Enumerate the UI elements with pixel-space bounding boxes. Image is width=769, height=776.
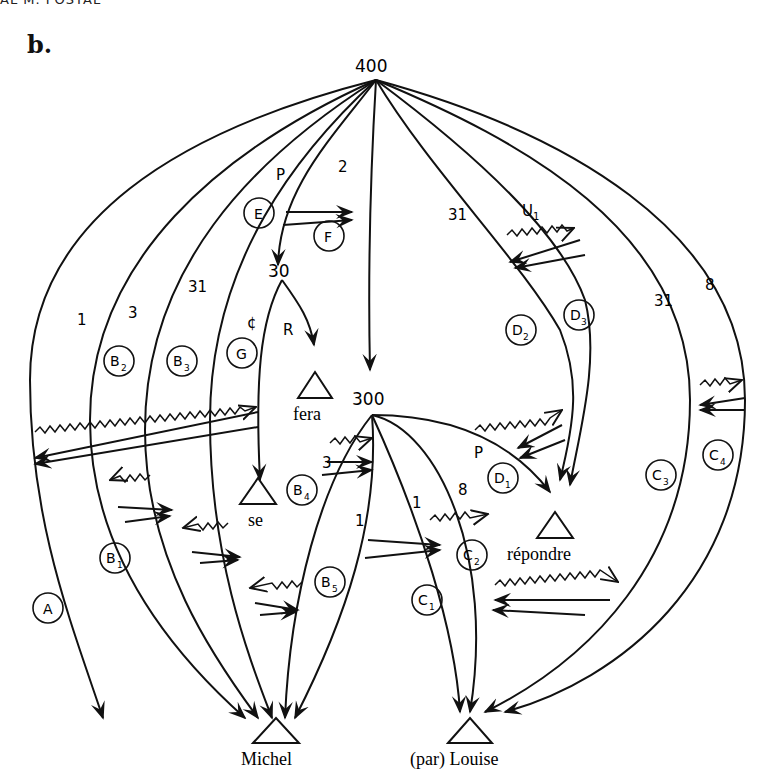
svg-text:C: C xyxy=(709,447,719,463)
svg-text:5: 5 xyxy=(332,584,338,594)
svg-text:E: E xyxy=(254,206,263,222)
svg-text:D: D xyxy=(570,307,581,323)
node-400: 400 xyxy=(355,56,387,76)
label-8-c: 8 xyxy=(458,481,468,499)
arrow-2b xyxy=(283,220,352,225)
triangle-michel xyxy=(253,718,299,743)
word-repondre: répondre xyxy=(507,544,571,564)
circled-D1: D1 xyxy=(488,463,518,493)
arrow-b5-a xyxy=(255,603,298,610)
label-3-left: 3 xyxy=(128,304,138,322)
arrow-b1-a xyxy=(118,507,172,510)
word-louise: (par) Louise xyxy=(410,749,498,770)
svg-text:2: 2 xyxy=(474,557,480,567)
arc-C3 xyxy=(376,80,690,712)
arrow-b3-b xyxy=(200,560,238,563)
svg-text:2: 2 xyxy=(121,363,127,373)
arrow-b5-b xyxy=(260,612,296,615)
triangle-louise xyxy=(448,718,492,743)
circled-B3: B3 xyxy=(167,346,197,376)
svg-text:3: 3 xyxy=(184,363,190,373)
svg-text:G: G xyxy=(236,346,247,362)
circled-C4: C4 xyxy=(703,440,733,470)
label-U1: U1 xyxy=(522,202,539,222)
arc-diagram: 400 30 300 fera se répondre Michel (par)… xyxy=(0,0,769,776)
circled-E: E xyxy=(244,198,274,228)
arrow-c-a xyxy=(368,540,440,545)
circled-C2: C2 xyxy=(457,540,487,570)
label-1-left: 1 xyxy=(77,311,87,329)
triangle-repondre xyxy=(537,512,573,538)
circled-C3: C3 xyxy=(646,460,676,490)
circled-D2: D2 xyxy=(506,315,536,345)
circled-B5: B5 xyxy=(315,567,345,597)
arrow-c-b xyxy=(365,550,440,558)
circled-A: A xyxy=(33,593,63,623)
circled-F: F xyxy=(314,221,344,251)
label-1-b4: 1 xyxy=(355,512,365,530)
label-null: ¢ xyxy=(247,314,257,332)
label-31-left: 31 xyxy=(188,278,207,296)
zigzag-b5 xyxy=(250,581,302,589)
svg-text:B: B xyxy=(173,353,183,369)
svg-text:2: 2 xyxy=(523,332,529,342)
arrow-louise-b xyxy=(493,610,585,615)
word-fera: fera xyxy=(293,404,321,424)
svg-text:D: D xyxy=(494,470,505,486)
svg-text:B: B xyxy=(293,482,303,498)
arc-F xyxy=(369,80,376,370)
word-michel: Michel xyxy=(241,749,292,769)
label-p-d1: P xyxy=(474,444,483,462)
svg-text:B: B xyxy=(321,574,331,590)
svg-text:1: 1 xyxy=(429,602,435,612)
arc-D3 xyxy=(376,80,590,485)
label-31-right: 31 xyxy=(654,292,673,310)
svg-text:D: D xyxy=(512,322,523,338)
zigzag-louise xyxy=(495,570,618,586)
label-R: R xyxy=(283,321,293,339)
svg-text:B: B xyxy=(106,550,116,566)
circled-B1: B1 xyxy=(100,543,130,573)
svg-text:3: 3 xyxy=(581,317,587,327)
svg-text:1: 1 xyxy=(117,560,123,570)
zigzag-b1 xyxy=(110,474,150,482)
zigzag-b3 xyxy=(183,522,228,530)
triangle-se xyxy=(240,478,276,504)
label-1-c: 1 xyxy=(412,494,422,512)
svg-text:B: B xyxy=(110,353,120,369)
label-31-mid: 31 xyxy=(448,206,467,224)
circled-C1: C1 xyxy=(412,585,442,615)
zigzag-b4 xyxy=(330,436,372,444)
circled-B4: B4 xyxy=(287,475,317,505)
arrow-b1-b xyxy=(125,516,170,522)
zigzag-c3 xyxy=(700,378,742,386)
svg-text:4: 4 xyxy=(304,492,310,502)
circled-G: G xyxy=(227,338,257,368)
arc-null xyxy=(258,280,282,480)
svg-text:F: F xyxy=(324,229,332,245)
label-p-top: P xyxy=(276,166,285,184)
svg-text:3: 3 xyxy=(663,477,669,487)
label-2: 2 xyxy=(338,158,348,176)
label-3-b4: 3 xyxy=(322,454,332,472)
arrow-c3-a xyxy=(700,398,745,405)
svg-text:C: C xyxy=(418,592,428,608)
triangle-fera xyxy=(298,372,332,398)
arc-C1 xyxy=(372,415,460,712)
svg-text:A: A xyxy=(43,601,53,617)
svg-text:C: C xyxy=(463,547,473,563)
svg-text:C: C xyxy=(652,467,662,483)
circled-B2: B2 xyxy=(104,346,134,376)
svg-text:4: 4 xyxy=(720,457,726,467)
node-30: 30 xyxy=(268,261,290,281)
word-se: se xyxy=(248,510,263,530)
zigzag-d1 xyxy=(475,410,562,431)
arc-D2 xyxy=(376,80,573,480)
label-8-right: 8 xyxy=(705,276,715,294)
svg-text:1: 1 xyxy=(505,480,511,490)
arrow-b3-a xyxy=(192,552,240,557)
node-300: 300 xyxy=(352,389,384,409)
circled-D3: D3 xyxy=(564,300,594,330)
